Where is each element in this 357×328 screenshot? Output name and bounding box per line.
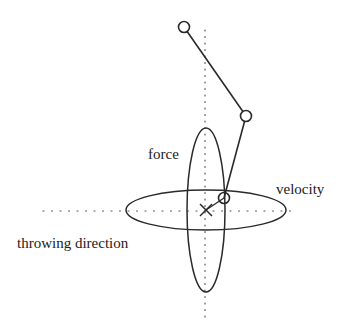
forearm-link: [224, 116, 246, 198]
velocity-label: velocity: [276, 181, 325, 197]
diagram-svg: force velocity throwing direction: [0, 0, 357, 328]
upper-arm-link: [184, 27, 246, 116]
force-label: force: [148, 146, 179, 162]
elbow-joint-icon: [241, 111, 252, 122]
diagram-canvas: force velocity throwing direction: [0, 0, 357, 328]
target-x-icon: [200, 204, 212, 216]
throwing-direction-label: throwing direction: [17, 235, 129, 251]
shoulder-joint-icon: [179, 22, 190, 33]
